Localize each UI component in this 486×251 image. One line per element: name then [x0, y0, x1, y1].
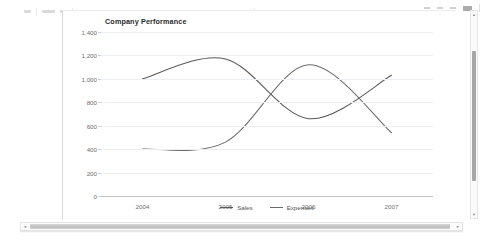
chart-legend: SalesExpenses [101, 204, 433, 211]
gridline [101, 32, 433, 33]
y-axis-tick-label: 1,200 [82, 52, 97, 59]
toolbar-icon-2[interactable] [42, 10, 55, 13]
y-axis-tick-mark [98, 55, 101, 56]
series-line-sales [143, 58, 392, 119]
series-lines [101, 32, 433, 196]
horizontal-scrollbar-thumb[interactable] [30, 224, 450, 229]
y-axis-tick-mark [98, 196, 101, 197]
window-edge-divider [479, 4, 480, 12]
chart-title: Company Performance [105, 17, 187, 26]
vertical-scrollbar[interactable]: ▲ ▼ [470, 10, 478, 219]
scroll-up-arrow-icon[interactable]: ▲ [471, 11, 477, 18]
legend-label: Expenses [287, 204, 314, 211]
y-axis-tick-label: 1,400 [82, 29, 97, 36]
legend-swatch-icon [220, 207, 233, 208]
scroll-right-arrow-icon[interactable]: ► [454, 223, 462, 230]
maximize-icon[interactable] [450, 7, 456, 9]
application-window: Company Performance 02004006008001,0001,… [0, 0, 486, 251]
scroll-left-arrow-icon[interactable]: ◄ [21, 223, 29, 230]
toolbar-separator-1 [36, 8, 37, 15]
scrollbar-shadow [20, 231, 463, 233]
restore-icon[interactable] [437, 7, 443, 9]
gridline [101, 79, 433, 80]
legend-item-sales[interactable]: Sales [220, 204, 252, 211]
y-axis-tick-label: 1,000 [82, 75, 97, 82]
chart-panel: Company Performance 02004006008001,0001,… [62, 10, 456, 220]
scroll-down-arrow-icon[interactable]: ▼ [471, 211, 477, 218]
y-axis-tick-label: 800 [87, 99, 97, 106]
gridline [101, 55, 433, 56]
gridline [101, 149, 433, 150]
legend-swatch-icon [270, 207, 283, 208]
y-axis-tick-mark [98, 173, 101, 174]
plot-area: 02004006008001,0001,2001,400200420052006… [101, 32, 433, 196]
gridline [101, 102, 433, 103]
y-axis-tick-mark [98, 149, 101, 150]
y-axis-tick-label: 400 [87, 146, 97, 153]
gridline [101, 173, 433, 174]
legend-item-expenses[interactable]: Expenses [270, 204, 314, 211]
y-axis-tick-mark [98, 102, 101, 103]
x-axis-line [101, 196, 433, 197]
y-axis-tick-mark [98, 32, 101, 33]
y-axis-tick-label: 600 [87, 122, 97, 129]
horizontal-scrollbar[interactable]: ◄ ► [20, 222, 463, 231]
y-axis-tick-mark [98, 79, 101, 80]
y-axis-tick-label: 0 [94, 193, 97, 200]
toolbar-icon-1[interactable] [24, 10, 31, 13]
y-axis-tick-mark [98, 126, 101, 127]
legend-label: Sales [237, 204, 252, 211]
vertical-scrollbar-thumb[interactable] [472, 51, 476, 181]
minimize-icon[interactable] [424, 7, 430, 9]
y-axis-tick-label: 200 [87, 169, 97, 176]
series-line-expenses [143, 65, 392, 151]
gridline [101, 126, 433, 127]
